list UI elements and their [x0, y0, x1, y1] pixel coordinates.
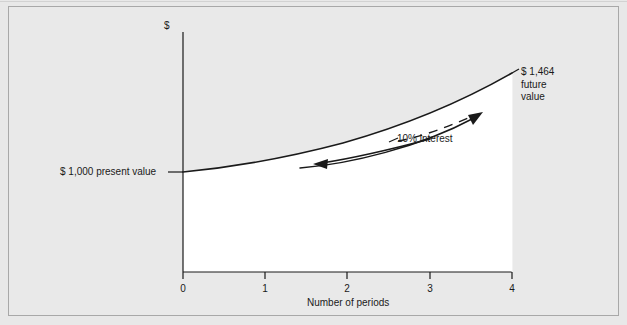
y-axis-label: $	[164, 20, 170, 32]
future-value-word-future: future	[521, 79, 554, 92]
chart-plot-area: 0 1 2 3 4	[0, 0, 627, 325]
x-axis-title: Number of periods	[307, 297, 389, 309]
plot-fill-region	[183, 73, 512, 272]
future-value-annotation: $ 1,464 future value	[521, 66, 554, 104]
future-value-leader-line	[512, 69, 519, 73]
figure-container: 0 1 2 3 4 $ $ 1,000 present value $ 1,46…	[0, 0, 627, 325]
x-axis-ticks	[183, 272, 512, 279]
interest-rate-annotation: 10% interest	[397, 133, 453, 145]
x-tick-label-3: 3	[427, 283, 433, 294]
future-value-amount: $ 1,464	[521, 66, 554, 79]
x-tick-label-0: 0	[180, 283, 186, 294]
x-tick-label-1: 1	[262, 283, 268, 294]
x-tick-label-4: 4	[509, 283, 515, 294]
present-value-annotation: $ 1,000 present value	[60, 166, 156, 178]
x-tick-label-group: 0 1 2 3 4	[180, 283, 515, 294]
future-value-word-value: value	[521, 91, 554, 104]
x-tick-label-2: 2	[344, 283, 350, 294]
